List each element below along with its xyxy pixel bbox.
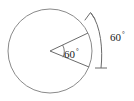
geometry-figure: 60 ° 60 ° bbox=[0, 0, 134, 101]
external-rotation-arc bbox=[91, 13, 102, 68]
arrowhead-icon bbox=[85, 13, 95, 21]
sector-angle-label: 60 bbox=[64, 48, 76, 60]
sector-angle-degree-symbol: ° bbox=[76, 47, 79, 55]
external-arc-angle-label: 60 bbox=[110, 31, 122, 43]
external-arc-degree-symbol: ° bbox=[122, 30, 125, 38]
